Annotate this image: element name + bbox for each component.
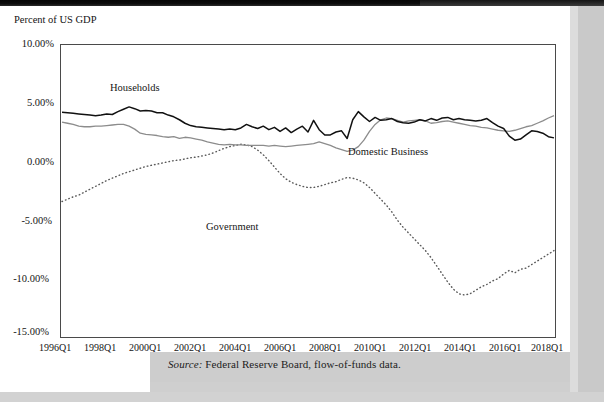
series-annotation-domestic-business: Domestic Business <box>348 146 428 157</box>
source-note-label: Source: <box>168 358 203 370</box>
y-axis-title: Percent of US GDP <box>14 14 97 25</box>
x-tick-label-1996Q1: 1996Q1 <box>39 342 71 353</box>
figure-panel: Percent of US GDP 10.00% 5.00% 0.00% -5.… <box>0 6 578 354</box>
y-tick-label-10: 10.00% <box>2 38 54 49</box>
series-annotation-households: Households <box>110 82 160 93</box>
page-bottom-margin <box>0 392 604 402</box>
x-tick-label-1998Q1: 1998Q1 <box>84 342 116 353</box>
y-tick-label-neg5: -5.00% <box>0 215 52 226</box>
y-tick-label-neg15: -15.00% <box>0 326 49 337</box>
series-government <box>62 144 554 295</box>
page-right-inner-margin <box>570 6 578 402</box>
source-note: Source: Federal Reserve Board, flow-of-f… <box>168 358 401 370</box>
source-note-text: Federal Reserve Board, flow-of-funds dat… <box>203 358 401 370</box>
series-annotation-government: Government <box>206 221 259 232</box>
y-tick-label-5: 5.00% <box>2 97 54 108</box>
series-households <box>62 107 554 140</box>
y-tick-label-neg10: -10.00% <box>0 273 49 284</box>
page-right-margin <box>578 6 604 402</box>
y-tick-label-0: 0.00% <box>2 156 54 167</box>
